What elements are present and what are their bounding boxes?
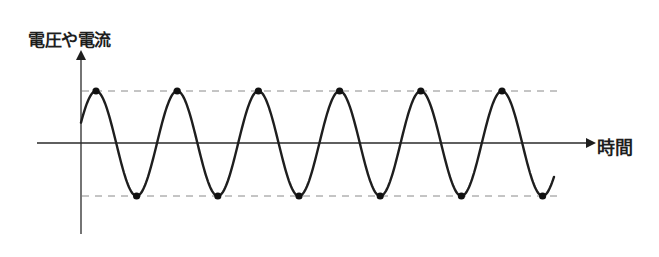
sine-wave-diagram: 電圧や電流 時間 [0,0,659,257]
peak-marker [336,87,343,94]
y-axis-label: 電圧や電流 [28,26,111,51]
x-axis-label: 時間 [597,133,633,159]
trough-marker [458,192,465,199]
peak-marker [417,87,424,94]
peak-marker [174,87,181,94]
peak-marker [92,87,99,94]
trough-marker [214,192,221,199]
peak-marker [498,87,505,94]
trough-marker [295,192,302,199]
peak-marker [255,87,262,94]
trough-marker [377,192,384,199]
trough-marker [133,192,140,199]
trough-marker [539,192,546,199]
